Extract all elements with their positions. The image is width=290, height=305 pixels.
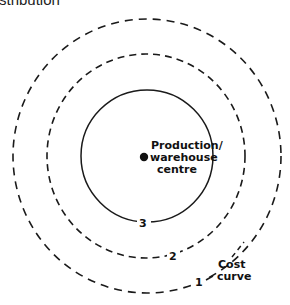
centre-label-line2: warehouse <box>150 152 218 163</box>
legend-leader-line <box>232 242 244 257</box>
centre-label-line3: centre <box>157 164 197 175</box>
legend-label-line2: curve <box>217 271 251 282</box>
curve-label-1: 1 <box>195 277 203 288</box>
curve-label-3: 3 <box>139 218 147 229</box>
curve-label-2: 2 <box>169 251 177 262</box>
centre-point-icon <box>140 153 148 161</box>
centre-label-line1: Production/ <box>151 140 223 151</box>
legend-label-line1: Cost <box>218 259 245 270</box>
cost-curve-diagram <box>0 0 290 305</box>
